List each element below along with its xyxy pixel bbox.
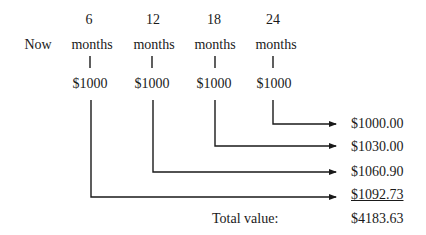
future-value-6: $1092.73: [351, 187, 404, 203]
arrow-24-to-value: [273, 100, 336, 124]
future-value-12: $1060.90: [351, 164, 404, 180]
arrow-18-to-value: [215, 100, 336, 146]
total-value: $4183.63: [351, 211, 404, 227]
total-label: Total value:: [212, 211, 278, 227]
future-value-24: $1000.00: [351, 116, 404, 132]
arrow-12-to-value: [153, 100, 336, 172]
future-value-18: $1030.00: [351, 139, 404, 155]
arrow-6-to-value: [91, 100, 336, 197]
